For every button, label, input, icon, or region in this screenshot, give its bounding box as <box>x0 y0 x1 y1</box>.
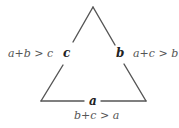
inequality-a: b+c > a <box>74 110 119 122</box>
side-b-upper <box>93 7 115 45</box>
side-label-c: c <box>63 47 70 59</box>
inequality-c: a+b > c <box>8 48 53 60</box>
side-b-lower <box>124 64 146 101</box>
side-c-upper <box>73 7 93 42</box>
side-label-a: a <box>89 95 97 107</box>
triangle-diagram: a+b > c c b a+c > b a b+c > a <box>0 0 179 128</box>
side-label-b: b <box>116 47 124 59</box>
inequality-b: a+c > b <box>133 48 178 60</box>
side-c-lower <box>41 65 63 101</box>
